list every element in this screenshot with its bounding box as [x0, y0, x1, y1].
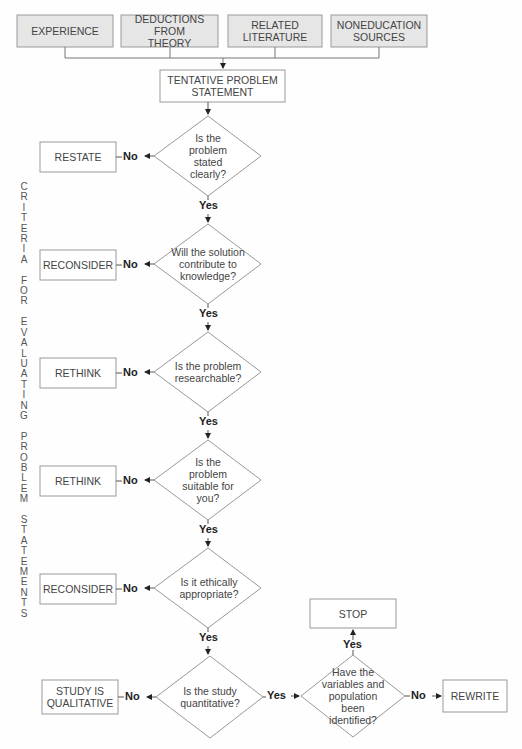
yes-label: Yes: [199, 631, 218, 643]
no-label: No: [123, 474, 138, 486]
question-researchable: Is the problem researchable?: [172, 342, 244, 402]
no-label: No: [411, 689, 426, 701]
source-noneducation-sources: NONEDUCATION SOURCES: [331, 15, 427, 47]
yes-label: Yes: [199, 199, 218, 211]
question-contribute-knowledge: Will the solution contribute to knowledg…: [170, 234, 246, 294]
question-quantitative: Is the study quantitative?: [177, 667, 243, 727]
yes-label: Yes: [199, 523, 218, 535]
question-stated-clearly: Is the problem stated clearly?: [175, 126, 241, 186]
action-reconsider: RECONSIDER: [40, 250, 116, 280]
action-rewrite: REWRITE: [443, 680, 507, 712]
action-reconsider: RECONSIDER: [40, 574, 116, 604]
yes-label: Yes: [199, 415, 218, 427]
no-label: No: [123, 366, 138, 378]
flowchart: EXPERIENCE DEDUCTIONS FROM THEORY RELATE…: [0, 0, 522, 749]
tentative-problem-statement: TENTATIVE PROBLEM STATEMENT: [160, 70, 285, 102]
yes-label: Yes: [343, 638, 362, 650]
no-label: No: [125, 690, 140, 702]
action-restate: RESTATE: [40, 142, 116, 172]
source-related-literature: RELATED LITERATURE: [228, 15, 322, 47]
question-suitable: Is the problem suitable for you?: [175, 450, 241, 510]
no-label: No: [123, 582, 138, 594]
action-study-is-qualitative: STUDY IS QUALITATIVE: [42, 680, 118, 714]
no-label: No: [123, 150, 138, 162]
action-rethink: RETHINK: [40, 358, 116, 388]
side-title-criteria: CRITERIAFOREVALUATINGPROBLEMSTATEMENTS: [18, 182, 30, 619]
no-label: No: [123, 258, 138, 270]
action-rethink: RETHINK: [40, 466, 116, 496]
action-stop: STOP: [310, 599, 396, 628]
source-deductions-from-theory: DEDUCTIONS FROM THEORY: [121, 15, 218, 47]
source-experience: EXPERIENCE: [17, 15, 113, 47]
yes-label: Yes: [199, 307, 218, 319]
question-ethically-appropriate: Is it ethically appropriate?: [175, 558, 243, 618]
yes-label: Yes: [267, 689, 286, 701]
question-variables-identified: Have the variables and population been i…: [316, 666, 390, 726]
